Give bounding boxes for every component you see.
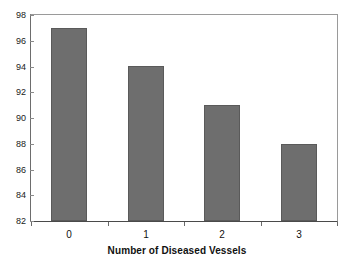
y-tick-label: 84 [0,191,26,200]
y-tick-label: 90 [0,114,26,123]
x-tick-label: 3 [279,229,319,240]
y-tick-mark [30,15,34,16]
y-tick-label: 82 [0,217,26,226]
y-tick-mark [30,170,34,171]
y-tick-label: 94 [0,63,26,72]
x-tick-mark [337,222,338,226]
y-tick-label: 86 [0,166,26,175]
x-tick-mark [31,222,32,226]
bar [281,144,317,221]
y-tick-mark [30,92,34,93]
x-tick-label: 1 [126,229,166,240]
bar [204,105,240,221]
x-tick-mark [108,222,109,226]
y-tick-label: 96 [0,37,26,46]
bar-slot [261,15,338,221]
y-tick-mark [30,118,34,119]
y-tick-label: 98 [0,11,26,20]
x-tick-label: 0 [49,229,89,240]
x-tick-label: 2 [202,229,242,240]
bar-slot [108,15,185,221]
y-tick-mark [30,195,34,196]
x-tick-mark [184,222,185,226]
bar [128,66,164,221]
y-tick-label: 88 [0,140,26,149]
y-tick-mark [30,41,34,42]
y-tick-mark [30,67,34,68]
bar-slot [184,15,261,221]
bar-chart: Number of Diseased Vessels 8284868890929… [0,0,354,264]
y-tick-mark [30,144,34,145]
bars-layer [31,15,337,221]
y-tick-label: 92 [0,88,26,97]
x-axis-title: Number of Diseased Vessels [0,245,354,256]
bar [51,28,87,221]
bar-slot [31,15,108,221]
x-tick-mark [261,222,262,226]
